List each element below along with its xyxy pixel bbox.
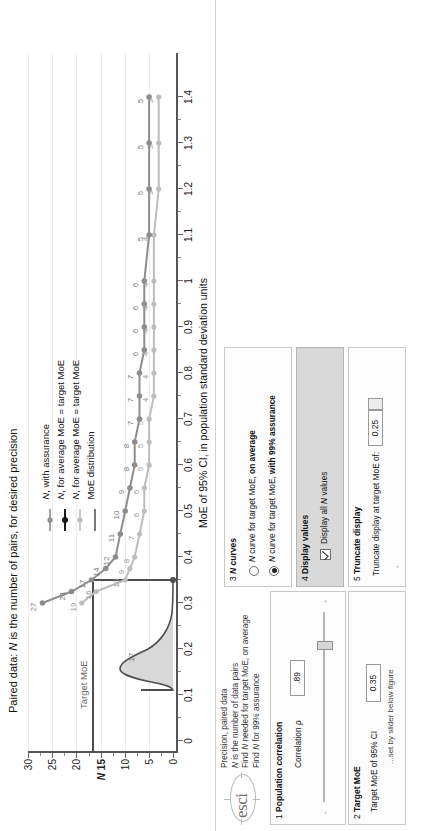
point-label: 21 [58, 592, 67, 601]
point-label: 4 [141, 237, 150, 241]
y-tick-label: 0 [168, 759, 179, 765]
truncate-moe-input[interactable]: 0.25 [368, 410, 383, 446]
correlation-slider[interactable]: - - [315, 612, 333, 802]
x-tick-label: 1.1 [183, 228, 194, 242]
radio-n-curve-average[interactable] [249, 566, 259, 576]
legend-moe-distribution-icon [86, 509, 96, 531]
slider-min-tick: - [320, 811, 329, 814]
point-label: 9 [117, 570, 126, 574]
correlation-input[interactable]: .89 [290, 660, 305, 696]
x-tick-minor [178, 625, 181, 626]
legend-label: N, for average MoE = target MoE [55, 360, 66, 500]
point-label: 10 [112, 511, 121, 520]
chart-legend: N, with assurance N, for average MoE = t… [36, 360, 96, 531]
x-tick-minor [178, 211, 181, 212]
x-tick-label: 1 [183, 278, 194, 284]
intro-line-1: Precision, paired data [220, 615, 231, 768]
legend-n-avg-moe-light-icon [71, 509, 81, 531]
radio-n-curve-assurance-label[interactable]: N curve for target MoE, with 99% assuran… [267, 395, 277, 562]
group-1-label: Population correlation [274, 722, 284, 812]
point-label: 5 [136, 444, 145, 448]
point-label: 6 [131, 283, 140, 287]
logo-tick [224, 799, 231, 800]
display-all-n-checkbox[interactable] [320, 549, 331, 560]
point-label: 11 [107, 534, 116, 542]
radio-n-curve-average-label[interactable]: N curve for target MoE, on average [247, 430, 257, 562]
group-4-title: 4 Display values [300, 515, 310, 581]
point-label: 5 [136, 467, 145, 471]
x-tick-label: 0.4 [183, 550, 194, 564]
truncate-spinner[interactable] [368, 398, 383, 410]
group-5-label: Truncate display [352, 507, 362, 574]
slider-thumb[interactable] [317, 641, 333, 650]
point-label: 16 [84, 591, 93, 600]
y-tick-label: 20 [71, 759, 82, 770]
target-point-marker [170, 577, 176, 583]
group-n-curves: 3 N curves N curve for target MoE, on av… [224, 347, 292, 587]
correlation-field-label: Correlation ρ [293, 720, 303, 768]
point-label: 27 [29, 603, 38, 612]
slider-min-tick: - [392, 565, 401, 568]
x-tick-minor [178, 579, 181, 580]
group-display-values: 4 Display values Display all N values [296, 347, 344, 587]
intro-text: Precision, paired data N is the number o… [220, 615, 262, 768]
x-tick-minor [178, 487, 181, 488]
group-2-number: 2 [352, 814, 362, 819]
point-label: 4 [141, 283, 150, 287]
y-tick-minor [137, 753, 138, 756]
x-tick-minor [178, 441, 181, 442]
intro-line-4: Find N for 99% assurance [252, 615, 263, 768]
y-tick [173, 753, 174, 758]
point-label: 4 [141, 398, 150, 402]
x-tick-label: 0 [183, 738, 194, 744]
point-label: 5 [136, 191, 145, 195]
group-population-correlation: 1 Population correlation Correlation ρ .… [270, 591, 346, 825]
group-1-title: 1 Population correlation [274, 722, 284, 819]
point-label: 8 [122, 467, 131, 471]
screenshot-frame: Paired data: N is the number of pairs, f… [0, 0, 429, 831]
point-label: 6 [131, 352, 140, 356]
point-label: 17 [78, 580, 87, 589]
truncate-slider[interactable]: - [387, 414, 405, 564]
point-label: 3 [146, 99, 155, 103]
y-tick [76, 753, 77, 758]
x-tick-label: 0.5 [183, 504, 194, 518]
point-label: 5 [136, 421, 145, 425]
group-2-title: 2 Target MoE [352, 766, 362, 819]
point-label: 5 [136, 145, 145, 149]
logo-tick [241, 772, 242, 778]
display-all-n-label[interactable]: Display all N values [319, 472, 329, 544]
x-tick-label: 0.9 [183, 320, 194, 334]
target-moe-field-label: Target MoE of 95% CI [369, 731, 379, 812]
target-moe-input[interactable]: 0.35 [366, 664, 381, 702]
y-tick [149, 753, 150, 758]
group-3-title: 3 N curves [228, 538, 238, 581]
moe-distribution-area [120, 580, 173, 691]
legend-item: MoE distribution [81, 360, 96, 531]
point-label: 6 [132, 513, 141, 517]
distribution-label: 17 [127, 653, 136, 662]
group-4-number: 4 [300, 576, 310, 581]
point-label: 9 [117, 490, 126, 494]
point-label: 4 [141, 375, 150, 379]
point-label: 8 [122, 559, 131, 563]
point-label: 19 [69, 603, 78, 612]
y-tick-label: 5 [144, 759, 155, 765]
point-label: 7 [126, 398, 135, 402]
y-tick-minor [64, 753, 65, 756]
intro-line-2: N is the number of data pairs [231, 615, 242, 768]
group-target-moe: 2 Target MoE Target MoE of 95% CI 0.35 .… [348, 591, 406, 825]
x-tick-minor [178, 303, 181, 304]
group-3-label: N curves [228, 538, 238, 574]
group-truncate-display: 5 Truncate display Truncate display at t… [348, 347, 406, 587]
chart-title: Paired data: N is the number of pairs, f… [7, 429, 19, 713]
point-label: 3 [146, 145, 155, 149]
radio-n-curve-assurance[interactable] [269, 566, 279, 576]
target-moe-hint: ...set by slider below figure [386, 669, 395, 764]
legend-n-avg-moe-dark-icon [56, 509, 66, 531]
legend-item: N, for average MoE = target MoE [51, 360, 66, 531]
slider-max-tick: - [320, 600, 329, 603]
x-tick-minor [178, 395, 181, 396]
x-tick-label: 0.1 [183, 688, 194, 702]
x-tick-label: 0.3 [183, 596, 194, 610]
